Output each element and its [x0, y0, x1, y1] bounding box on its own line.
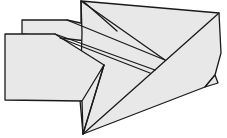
folded-paper-diagram [0, 0, 227, 138]
diagram-faces [5, 1, 221, 134]
